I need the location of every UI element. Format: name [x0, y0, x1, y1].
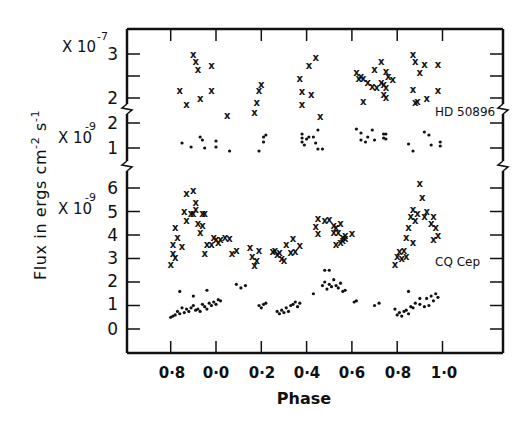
dot-marker: [199, 310, 202, 313]
x-tick-5: 0·8: [385, 364, 412, 382]
dot-marker: [427, 304, 430, 307]
x-tick-2: 0·2: [249, 364, 276, 382]
cross-marker: x: [229, 248, 236, 259]
dot-marker: [407, 312, 410, 315]
dot-marker: [205, 307, 208, 310]
top-tick-3: 3: [107, 44, 118, 64]
cross-marker: x: [226, 233, 233, 244]
ylabel-mid: s: [31, 122, 50, 137]
low-tick-6: 6: [107, 178, 118, 198]
mid-scale-exp: -9: [85, 120, 96, 133]
dot-marker: [321, 147, 324, 150]
dot-marker: [192, 295, 195, 298]
dot-marker: [423, 305, 426, 308]
cross-marker: x: [417, 178, 424, 189]
dot-marker: [205, 289, 208, 292]
dot-marker: [303, 143, 306, 146]
dot-marker: [425, 297, 428, 300]
dot-marker: [176, 310, 179, 313]
x-tick-0: 0·8: [159, 364, 186, 382]
cross-marker: x: [383, 82, 390, 93]
dot-marker: [439, 144, 442, 147]
cross-marker: x: [297, 73, 304, 84]
dot-marker: [396, 313, 399, 316]
cross-marker: x: [177, 85, 184, 96]
dot-marker: [180, 306, 183, 309]
dot-marker: [325, 287, 328, 290]
ylabel-exp2: -1: [29, 110, 42, 122]
dot-marker: [427, 133, 430, 136]
dot-marker: [344, 289, 347, 292]
dot-marker: [228, 149, 231, 152]
dot-marker: [280, 309, 283, 312]
x-tick-4: 0·6: [339, 364, 366, 382]
dot-marker: [439, 140, 442, 143]
scale-factors: X 10 -7 X 10 -9 X 10 -9: [58, 30, 108, 218]
dot-marker: [178, 312, 181, 315]
dot-marker: [264, 302, 267, 305]
dot-marker: [257, 149, 260, 152]
cross-marker: x: [412, 97, 419, 108]
cross-marker: x: [308, 89, 315, 100]
dot-marker: [339, 282, 342, 285]
cross-marker: x: [331, 227, 338, 238]
dot-marker: [328, 269, 331, 272]
cross-marker: x: [281, 255, 288, 266]
flux-phase-chart: xxxxxxxxxxxxxxxxxxxxxxxxxxxxxxxxxxxxxxxx…: [0, 0, 522, 422]
dot-marker: [382, 132, 385, 135]
top-tick-2: 2: [107, 88, 118, 108]
ylabel-text: Flux in ergs cm: [31, 149, 50, 280]
dot-marker: [330, 285, 333, 288]
dot-marker: [434, 292, 437, 295]
dot-marker: [201, 303, 204, 306]
y-axis-title: Flux in ergs cm-2 s-1: [29, 110, 50, 280]
cross-marker: x: [337, 218, 344, 229]
dot-marker: [208, 302, 211, 305]
y-tick-labels: 3 2 2 1 6 5 4 3 2 1 0: [107, 44, 118, 339]
dot-marker: [398, 311, 401, 314]
dot-marker: [244, 284, 247, 287]
dot-marker: [264, 133, 267, 136]
cross-marker: x: [258, 79, 265, 90]
dot-marker: [192, 304, 195, 307]
dot-marker: [373, 304, 376, 307]
cross-marker: x: [201, 248, 208, 259]
dot-marker: [262, 140, 265, 143]
dot-marker: [312, 292, 315, 295]
dot-marker: [418, 297, 421, 300]
ylabel-exp1: -2: [29, 137, 42, 149]
dot-marker: [203, 305, 206, 308]
cross-marker: x: [299, 99, 306, 110]
cross-marker: x: [208, 85, 215, 96]
mid-tick-2: 2: [107, 113, 118, 133]
cross-marker: x: [315, 228, 322, 239]
cross-marker: x: [349, 228, 356, 239]
dot-marker: [314, 141, 317, 144]
dot-marker: [183, 311, 186, 314]
cross-marker: x: [224, 110, 231, 121]
dot-marker: [377, 302, 380, 305]
dot-marker: [411, 149, 414, 152]
cross-marker: x: [360, 96, 367, 107]
dot-marker: [323, 280, 326, 283]
x-tick-6: 1·0: [431, 364, 458, 382]
cross-marker: x: [389, 74, 396, 85]
cross-marker: x: [417, 67, 424, 78]
dot-marker: [355, 299, 358, 302]
dot-marker: [407, 142, 410, 145]
dot-marker: [287, 310, 290, 313]
dot-marker: [359, 138, 362, 141]
dot-marker: [411, 306, 414, 309]
cross-marker: x: [208, 60, 215, 71]
dot-marker: [214, 303, 217, 306]
dot-marker: [332, 278, 335, 281]
cross-marker: x: [256, 245, 263, 256]
dot-marker: [300, 136, 303, 139]
dot-marker: [366, 135, 369, 138]
low-tick-3: 3: [107, 248, 118, 268]
svg-text:Flux in ergs cm-2 s-1: Flux in ergs cm-2 s-1: [29, 110, 50, 280]
dot-marker: [212, 300, 215, 303]
x-tick-labels: 0·8 0·0 0·2 0·4 0·6 0·8 1·0: [159, 364, 458, 382]
dot-marker: [414, 302, 417, 305]
top-scale-base: X 10: [62, 38, 96, 56]
